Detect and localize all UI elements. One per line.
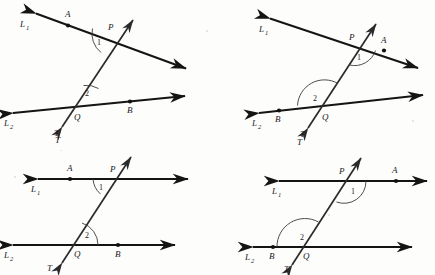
transversal-T <box>292 158 361 265</box>
label-L1: L <box>258 24 264 34</box>
geometry-figure: L 1 L 2 T P Q A B 1 2 L 1 L 2 <box>0 0 435 275</box>
panel-bottom-right: L 1 L 2 T T P Q A B 1 2 <box>244 137 427 274</box>
transversal-T <box>308 24 376 128</box>
label-L1-subscript: 1 <box>26 24 29 31</box>
diagram-canvas: L 1 L 2 T P Q A B 1 2 L 1 L 2 <box>0 0 435 275</box>
label-L1-subscript: 1 <box>265 29 268 36</box>
label-L1: L <box>271 186 277 196</box>
label-B: B <box>275 114 281 124</box>
label-P: P <box>338 166 345 176</box>
line-L2 <box>259 95 423 113</box>
label-Q: Q <box>74 249 81 259</box>
label-angle-2: 2 <box>85 89 89 98</box>
label-B: B <box>127 105 133 115</box>
label-T: T <box>284 264 290 274</box>
label-angle-1: 1 <box>99 183 103 192</box>
label-L1: L <box>19 19 25 29</box>
label-B: B <box>115 249 121 259</box>
line-L2 <box>13 96 185 113</box>
panel-top-left: L 1 L 2 T P Q A B 1 2 <box>3 9 186 138</box>
label-L2: L <box>244 252 250 262</box>
label-L2-subscript: 2 <box>251 257 255 264</box>
point-A-dot <box>68 177 72 181</box>
label-angle-2: 2 <box>300 233 304 242</box>
point-B-dot <box>271 245 275 249</box>
label-A: A <box>66 163 73 173</box>
label-L2-subscript: 2 <box>10 255 14 262</box>
label-P: P <box>348 32 355 42</box>
label-Q: Q <box>303 251 310 261</box>
label-A: A <box>380 35 387 45</box>
label-angle-1: 1 <box>351 187 355 196</box>
label-T-top: T <box>55 135 61 145</box>
line-L1 <box>270 19 418 69</box>
label-L2: L <box>3 250 9 260</box>
label-angle-1: 1 <box>97 38 101 47</box>
label-angle-2: 2 <box>313 94 317 103</box>
label-L2: L <box>3 118 9 128</box>
panel-top-right: L 1 L 2 T P Q A B 1 2 <box>251 19 423 140</box>
point-A-dot <box>382 48 386 52</box>
label-L1-subscript: 1 <box>278 191 281 198</box>
panel-bottom-left: L 1 L 2 T T P Q A B 1 2 <box>3 135 188 273</box>
point-B-dot <box>116 243 120 247</box>
label-L2-subscript: 2 <box>258 123 262 130</box>
label-angle-1: 1 <box>357 53 361 62</box>
label-angle-2: 2 <box>85 231 89 240</box>
label-A: A <box>391 165 398 175</box>
point-A-dot <box>394 179 398 183</box>
label-Q: Q <box>74 112 81 122</box>
point-A-dot <box>66 23 70 27</box>
label-L2-subscript: 2 <box>10 123 14 130</box>
point-B-dot <box>277 108 281 112</box>
label-A: A <box>64 9 71 19</box>
label-L1-subscript: 1 <box>37 189 40 196</box>
label-L2: L <box>251 118 257 128</box>
label-Q: Q <box>322 112 329 122</box>
label-T: T <box>47 263 53 273</box>
point-B-dot <box>128 99 132 103</box>
label-B: B <box>269 251 275 261</box>
label-L1: L <box>30 184 36 194</box>
label-P: P <box>107 22 114 32</box>
label-P: P <box>109 164 116 174</box>
